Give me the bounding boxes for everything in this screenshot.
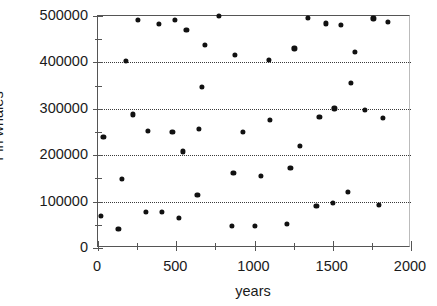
data-point xyxy=(184,27,189,32)
y-tick xyxy=(93,202,103,203)
data-point xyxy=(135,18,140,23)
x-tick-label: 500 xyxy=(163,258,187,274)
y-tick-label: 500000 xyxy=(40,7,88,23)
data-point xyxy=(99,213,104,218)
data-point xyxy=(231,170,236,175)
x-tick-minor xyxy=(294,243,295,250)
data-point xyxy=(176,216,181,221)
data-point xyxy=(305,15,310,20)
data-point xyxy=(292,46,297,51)
gridline-y xyxy=(98,62,411,63)
data-point xyxy=(116,226,121,231)
y-tick xyxy=(93,62,103,63)
x-tick xyxy=(411,241,412,251)
x-tick xyxy=(333,241,334,251)
data-point xyxy=(195,193,200,198)
data-point xyxy=(376,203,381,208)
data-point xyxy=(288,165,293,170)
data-point xyxy=(380,115,385,120)
data-point xyxy=(229,223,234,228)
x-tick-label: 2000 xyxy=(394,258,426,274)
y-tick-label: 200000 xyxy=(40,146,88,162)
data-point xyxy=(297,143,302,148)
y-tick xyxy=(93,16,103,17)
data-point xyxy=(345,189,350,194)
data-point xyxy=(143,210,148,215)
data-point xyxy=(268,117,273,122)
y-axis-title: Fin whales xyxy=(0,91,6,160)
gridline-y xyxy=(98,202,411,203)
y-tick-label: 100000 xyxy=(40,193,88,209)
data-point xyxy=(199,84,204,89)
data-point xyxy=(217,13,222,18)
data-point xyxy=(371,16,376,21)
data-point xyxy=(330,200,335,205)
y-tick-minor xyxy=(95,178,102,179)
x-tick xyxy=(98,241,99,251)
data-point xyxy=(232,52,237,57)
x-tick-minor xyxy=(372,243,373,250)
data-point xyxy=(317,115,322,120)
data-point xyxy=(314,203,319,208)
data-point xyxy=(145,128,150,133)
y-tick-label: 400000 xyxy=(40,53,88,69)
x-tick-minor xyxy=(215,243,216,250)
y-tick-label: 0 xyxy=(80,239,88,255)
x-tick xyxy=(176,241,177,251)
y-tick-minor xyxy=(95,225,102,226)
scatter-chart-figure: Fin whales years 01000002000003000004000… xyxy=(0,0,437,306)
data-point xyxy=(323,21,328,26)
data-point xyxy=(131,112,136,117)
gridline-y xyxy=(98,155,411,156)
data-point xyxy=(170,129,175,134)
data-point xyxy=(352,49,357,54)
x-tick-minor xyxy=(137,243,138,250)
plot-area xyxy=(97,15,410,247)
data-point xyxy=(338,22,343,27)
x-tick-label: 1500 xyxy=(316,258,348,274)
data-point xyxy=(156,21,161,26)
x-tick-label: 1000 xyxy=(237,258,269,274)
y-tick xyxy=(93,109,103,110)
data-point xyxy=(332,106,337,111)
data-point xyxy=(120,176,125,181)
y-tick-label: 300000 xyxy=(40,100,88,116)
data-point xyxy=(258,173,263,178)
data-point xyxy=(203,43,208,48)
x-tick-label: 0 xyxy=(93,258,101,274)
data-point xyxy=(284,221,289,226)
data-point xyxy=(172,18,177,23)
y-tick-minor xyxy=(95,39,102,40)
data-point xyxy=(101,134,106,139)
x-axis-title: years xyxy=(235,283,270,299)
y-tick xyxy=(93,155,103,156)
data-point xyxy=(362,107,367,112)
x-tick xyxy=(255,241,256,251)
data-point xyxy=(180,149,185,154)
data-point xyxy=(386,19,391,24)
data-point xyxy=(348,80,353,85)
data-point xyxy=(196,127,201,132)
data-point xyxy=(252,224,257,229)
y-tick-minor xyxy=(95,132,102,133)
data-point xyxy=(240,129,245,134)
y-tick-minor xyxy=(95,86,102,87)
data-point xyxy=(160,210,165,215)
